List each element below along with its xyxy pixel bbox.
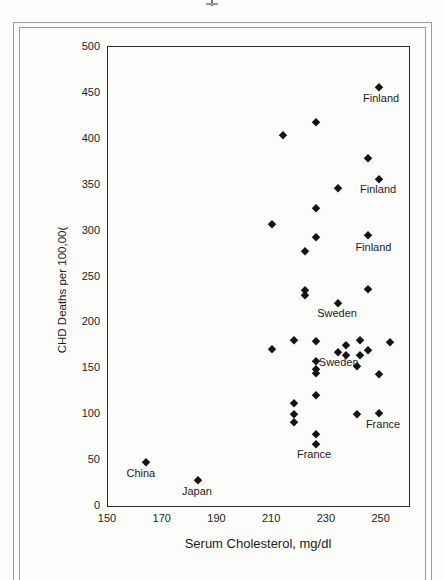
data-point-diamond: [375, 409, 383, 417]
data-point-diamond: [312, 233, 320, 241]
data-point-diamond: [334, 299, 342, 307]
plot-area: FinlandFinlandFinlandSwedenSwedenFranceF…: [107, 46, 410, 507]
data-point-diamond: [290, 418, 298, 426]
data-point-diamond: [142, 458, 150, 466]
y-tick-label: 450: [58, 85, 100, 99]
data-point-diamond: [312, 118, 320, 126]
y-tick-label: 50: [58, 452, 100, 466]
data-point-diamond: [312, 204, 320, 212]
y-tick-label: 400: [58, 131, 100, 145]
x-tick-label: 150: [98, 511, 116, 525]
cropped-header-mark: [206, 0, 218, 6]
data-point-diamond: [334, 184, 342, 192]
data-point-diamond: [375, 83, 383, 91]
country-label: France: [366, 418, 400, 430]
x-axis-title: Serum Cholesterol, mg/dl: [185, 536, 332, 551]
x-tick-label: 190: [207, 511, 225, 525]
country-label: France: [297, 448, 331, 460]
data-point-diamond: [356, 336, 364, 344]
data-point-diamond: [312, 391, 320, 399]
y-tick-label: 300: [58, 223, 100, 237]
x-tick-label: 230: [317, 511, 335, 525]
data-point-diamond: [364, 231, 372, 239]
country-label: China: [126, 467, 155, 479]
y-tick-label: 0: [58, 498, 100, 512]
country-label: Finland: [355, 241, 391, 253]
data-point-diamond: [268, 220, 276, 228]
data-point-diamond: [312, 337, 320, 345]
data-point-diamond: [312, 430, 320, 438]
data-point-diamond: [301, 247, 309, 255]
y-axis-tick-labels: 050100150200250300350400450500: [58, 46, 100, 505]
data-point-diamond: [194, 476, 202, 484]
country-label: Finland: [363, 92, 399, 104]
data-point-diamond: [290, 410, 298, 418]
data-point-diamond: [364, 154, 372, 162]
x-tick-label: 250: [371, 511, 389, 525]
data-point-diamond: [268, 345, 276, 353]
data-point-diamond: [301, 291, 309, 299]
x-tick-label: 170: [153, 511, 171, 525]
data-point-diamond: [279, 131, 287, 139]
x-axis-tick-labels: 150170190210230250: [107, 511, 408, 527]
country-label: Japan: [182, 485, 212, 497]
data-point-diamond: [364, 285, 372, 293]
y-tick-label: 200: [58, 314, 100, 328]
x-tick-label: 210: [262, 511, 280, 525]
y-tick-label: 350: [58, 177, 100, 191]
y-tick-label: 250: [58, 269, 100, 283]
y-tick-label: 100: [58, 406, 100, 420]
data-point-diamond: [290, 399, 298, 407]
y-tick-label: 500: [58, 39, 100, 53]
scanned-page: CHD Deaths per 100,00( Serum Cholesterol…: [0, 0, 444, 580]
data-point-diamond: [312, 440, 320, 448]
data-point-diamond: [375, 175, 383, 183]
data-point-diamond: [342, 341, 350, 349]
data-point-diamond: [353, 410, 361, 418]
data-point-diamond: [386, 338, 394, 346]
country-label: Sweden: [317, 307, 357, 319]
data-point-diamond: [290, 336, 298, 344]
y-tick-label: 150: [58, 360, 100, 374]
data-point-diamond: [375, 370, 383, 378]
country-label: Finland: [360, 183, 396, 195]
data-point-diamond: [364, 346, 372, 354]
